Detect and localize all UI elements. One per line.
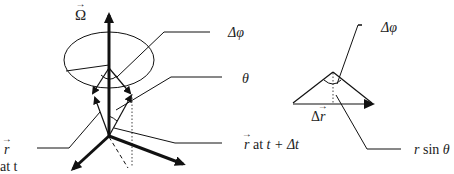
- r-symbol: r: [244, 138, 249, 152]
- radius-arrow-left: [93, 68, 109, 93]
- leader-line-right-delta-phi: [337, 25, 362, 84]
- triangle-left-side: [293, 72, 333, 103]
- theta-text: θ: [242, 71, 249, 86]
- sin-text: sin: [419, 142, 442, 157]
- theta-text: θ: [443, 142, 450, 157]
- omega-symbol: Ω: [75, 8, 86, 23]
- leader-line-r-at-t: [37, 112, 100, 148]
- leader-line-r-sin-theta: [336, 95, 401, 149]
- delta-text: Δ: [311, 109, 320, 124]
- label-omega: Ω: [75, 8, 86, 23]
- r-vector-at-t-plus-dt: [109, 96, 131, 136]
- right-figure: [293, 25, 401, 149]
- axis-left-arrow: [73, 136, 109, 169]
- axis-right-arrow: [109, 136, 183, 164]
- at-t-text: at t: [0, 159, 18, 174]
- at-text: at: [249, 137, 266, 152]
- label-delta-phi-left: Δφ: [228, 26, 244, 40]
- left-figure: [37, 15, 222, 169]
- leader-line-delta-phi: [117, 32, 210, 77]
- label-theta: θ: [242, 72, 249, 86]
- circle-radius-line: [66, 65, 109, 71]
- label-r-at-t-plus-dt: r at t + Δt: [244, 138, 299, 152]
- label-r-sin-theta: r sin θ: [414, 143, 450, 157]
- label-at-t: at t: [0, 160, 18, 174]
- delta-phi-text: Δφ: [228, 25, 244, 40]
- radius-arrow-right: [109, 68, 130, 93]
- label-delta-r: Δr: [311, 110, 325, 124]
- r-symbol: r: [320, 110, 325, 124]
- leader-line-r-at-t-plus-dt: [114, 128, 222, 143]
- r-vector-at-t: [95, 98, 109, 136]
- r-symbol: r: [4, 143, 9, 157]
- label-r-at-t: r: [4, 143, 9, 157]
- label-delta-phi-right: Δφ: [381, 21, 397, 35]
- delta-phi-text: Δφ: [381, 20, 397, 35]
- triangle-right-side: [333, 72, 372, 103]
- time-text: t + Δt: [267, 137, 299, 152]
